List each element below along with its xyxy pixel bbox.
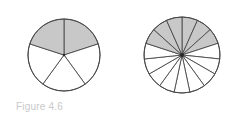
figure-container: Figure 4.6: [0, 0, 235, 125]
circle-center-dot: [180, 53, 184, 57]
fifteen-sector-circle: [144, 17, 220, 93]
figure-caption: Figure 4.6: [16, 101, 63, 112]
circle-center-dot: [63, 54, 66, 57]
five-sector-circle: [28, 19, 100, 91]
